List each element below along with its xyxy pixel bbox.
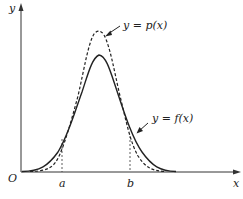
p-label-arrow: [105, 26, 120, 37]
figure-caption: [40, 188, 200, 199]
y-axis: [19, 3, 24, 172]
p-curve-label: y = p(x): [123, 20, 167, 31]
diagram-figure: y O x a b y = p(x) y = f(x): [0, 0, 243, 199]
x-axis-label: x: [233, 178, 239, 189]
y-axis-arrow-icon: [19, 3, 24, 11]
f-curve-label: y = f(x): [152, 113, 193, 124]
f-label-arrow: [137, 123, 149, 134]
curve-p: [30, 31, 166, 171]
y-axis-label: y: [9, 3, 15, 14]
origin-label: O: [8, 173, 17, 184]
x-axis-arrow-icon: [233, 170, 241, 175]
x-axis: [21, 170, 241, 175]
